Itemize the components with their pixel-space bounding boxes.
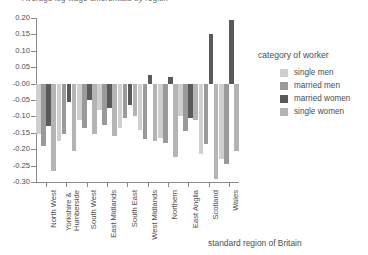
bar (46, 84, 51, 127)
bars-container (36, 18, 239, 182)
y-axis-tick-label: 0.15 (0, 30, 30, 38)
bar (193, 84, 198, 120)
y-axis-tick-label: 0.05 (0, 63, 30, 71)
legend-swatch-icon (280, 95, 288, 103)
bar (204, 84, 209, 145)
legend-swatch-icon (280, 69, 288, 77)
bar (229, 20, 234, 84)
bar (138, 84, 143, 130)
x-axis-tick (107, 182, 108, 187)
bar (219, 84, 224, 159)
bar (128, 84, 133, 105)
y-axis-tick-label: -0.15 (0, 129, 30, 137)
bar (214, 84, 219, 179)
bar (209, 34, 214, 83)
bar (188, 84, 193, 118)
bar (123, 84, 128, 118)
y-axis-tick-label: -0.20 (0, 145, 30, 153)
bar (107, 84, 112, 109)
chart-root: Average log wage differentials by region… (0, 0, 368, 255)
bar (133, 84, 138, 117)
bar (153, 84, 158, 141)
legend-item-label: single men (294, 68, 334, 77)
y-axis-tick (31, 182, 36, 183)
y-axis-tick-label-text: -0.05 (0, 96, 30, 104)
bar (183, 84, 188, 132)
chart-title-clipped: Average log wage differentials by region (22, 0, 168, 3)
bar (148, 75, 153, 83)
bar (168, 77, 173, 84)
x-axis-label: North West (50, 190, 58, 228)
legend-item: single women (258, 106, 366, 117)
y-axis-tick-label: -0.25 (0, 162, 30, 170)
bar (163, 84, 168, 143)
bar (51, 84, 56, 171)
y-axis-tick-label-text: -0.25 (0, 162, 30, 170)
y-axis-tick-label: -0.00 (0, 80, 30, 88)
bar (178, 84, 183, 117)
x-axis-tick (87, 182, 88, 187)
bar (67, 84, 72, 102)
legend-swatch-icon (280, 82, 288, 90)
bar (158, 84, 163, 138)
legend-item: married men (258, 80, 366, 91)
x-axis-label: East Midlands (110, 190, 118, 238)
legend-item-label: married men (294, 81, 340, 90)
y-axis-tick-label: -0.30 (0, 178, 30, 186)
x-axis-label: Scotland (212, 190, 220, 220)
legend: category of worker single menmarried men… (258, 50, 366, 119)
bar (57, 84, 62, 141)
legend-swatch-icon (280, 108, 288, 116)
bar (62, 84, 67, 135)
x-axis-label: West Midlands (151, 190, 159, 240)
y-axis-tick-label-text: 0.05 (0, 63, 30, 71)
bar (36, 84, 41, 135)
y-axis-tick-label: -0.05 (0, 96, 30, 104)
bar (118, 84, 123, 128)
x-axis-tick (209, 182, 210, 187)
legend-items: single menmarried menmarried womensingle… (258, 67, 366, 117)
legend-item: single men (258, 67, 366, 78)
legend-title: category of worker (258, 50, 366, 60)
x-axis-label: South West (90, 190, 98, 229)
y-axis-tick-label-text: 0.20 (0, 14, 30, 22)
bar (199, 84, 204, 155)
y-axis-tick-label: 0.20 (0, 14, 30, 22)
bar (77, 84, 82, 120)
bar (92, 84, 97, 135)
x-axis-tick (127, 182, 128, 187)
bar (97, 84, 102, 110)
x-axis-tick (188, 182, 189, 187)
x-axis-title: standard region of Britain (208, 238, 302, 248)
x-axis-label: Wales (232, 190, 240, 211)
bar (87, 84, 92, 100)
bar (173, 84, 178, 158)
x-axis-tick (66, 182, 67, 187)
bar (234, 84, 239, 151)
x-axis-tick (168, 182, 169, 187)
x-axis-label: South East (131, 190, 139, 227)
bar (224, 84, 229, 164)
bar (72, 84, 77, 151)
bar (112, 84, 117, 136)
bar (143, 84, 148, 140)
x-axis-tick (229, 182, 230, 187)
y-axis-tick-label-text: -0.00 (0, 80, 30, 88)
y-axis-tick-label-text: -0.10 (0, 112, 30, 120)
y-axis-tick-label-text: 0.10 (0, 47, 30, 55)
x-axis-label: Yorkshire &Humberside (65, 190, 81, 231)
x-axis-label-line: Humberside (73, 190, 81, 231)
y-axis-tick-label: 0.10 (0, 47, 30, 55)
y-axis-tick-label-text: 0.15 (0, 30, 30, 38)
bar (82, 84, 87, 128)
legend-item: married women (258, 93, 366, 104)
bar (102, 84, 107, 125)
x-axis-label: Northern (171, 190, 179, 220)
x-axis-tick (148, 182, 149, 187)
legend-item-label: married women (294, 94, 350, 103)
legend-item-label: single women (294, 107, 344, 116)
y-axis-tick-label: -0.10 (0, 112, 30, 120)
y-axis-tick-label-text: -0.15 (0, 129, 30, 137)
bar (41, 84, 46, 146)
x-axis-tick (46, 182, 47, 187)
